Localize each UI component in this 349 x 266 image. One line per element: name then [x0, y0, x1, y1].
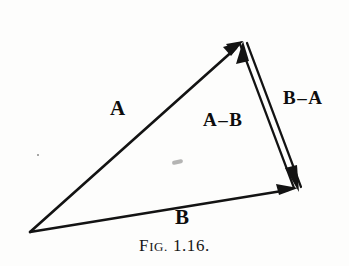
scan-speck	[37, 154, 39, 156]
a-minus-b-operator: –	[217, 109, 229, 130]
vector-a-label: A	[110, 98, 126, 119]
b-minus-a-term-left: B	[283, 87, 296, 108]
b-minus-a-operator: –	[296, 87, 308, 108]
a-minus-b-term-right: B	[229, 109, 242, 130]
caption-prefix-ig: IG.	[149, 239, 168, 254]
caption-number: 1.16.	[173, 236, 210, 255]
vector-a-minus-b-label: A–B	[203, 110, 242, 129]
vector-b	[30, 184, 298, 232]
difference-line-inner	[240, 44, 294, 188]
figure-container: A B A–B B–A FIG.1.16.	[0, 0, 349, 266]
figure-caption: FIG.1.16.	[0, 236, 349, 256]
vector-b-label: B	[175, 207, 190, 228]
b-minus-a-term-right: A	[308, 87, 322, 108]
a-minus-b-term-left: A	[203, 109, 217, 130]
vector-b-minus-a-label: B–A	[283, 88, 322, 107]
difference-line-outer	[247, 43, 301, 187]
vector-b-arrowhead	[276, 184, 298, 195]
vector-difference-side	[236, 41, 301, 192]
caption-prefix-f: F	[139, 236, 149, 255]
